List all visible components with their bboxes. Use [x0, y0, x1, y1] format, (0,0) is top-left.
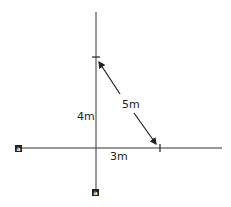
left-end-marker-icon: a: [15, 145, 22, 152]
right-triangle-diagram: 5m 4m 3m a a: [0, 0, 231, 207]
hypotenuse-arrow-upper: [99, 62, 120, 94]
hypotenuse-length-label: 5m: [122, 98, 140, 111]
horizontal-length-label: 3m: [110, 150, 128, 163]
svg-text:a: a: [94, 189, 98, 196]
bottom-end-marker-icon: a: [92, 189, 99, 196]
vertical-length-label: 4m: [77, 110, 95, 123]
svg-text:a: a: [17, 145, 21, 152]
hypotenuse-arrow-lower: [134, 113, 156, 144]
